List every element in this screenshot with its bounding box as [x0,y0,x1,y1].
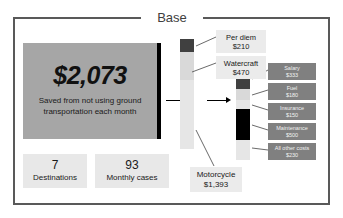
callout-value: $150 [268,112,316,119]
leader-fuel [252,90,268,95]
leader-all-other-costs [252,148,268,150]
callout-value: $210 [216,42,266,51]
callout-value: $500 [268,132,316,139]
page-title: Base [141,9,203,27]
callout-label: Salary [268,65,316,72]
callout-insurance: Insurance $150 [268,103,316,120]
callout-per-diem: Per diem $210 [216,30,266,53]
callout-label: All other costs [268,145,316,152]
leader-insurance [252,105,268,110]
leader-watercraft [192,63,216,72]
callout-motorcycle: Motorcycle $1,393 [190,167,242,192]
callout-label: Motorcycle [190,170,242,180]
callout-value: $180 [268,92,316,99]
callout-label: Insurance [268,105,316,112]
callout-value: $333 [268,72,316,79]
callout-fuel: Fuel $180 [268,83,316,100]
callout-maintenance: Maintenance $500 [268,123,316,140]
callout-value: $470 [216,68,266,77]
callout-label: Maintenance [268,125,316,132]
leader-per-diem [196,37,216,46]
callout-value: $230 [268,152,316,159]
callout-watercraft: Watercraft $470 [216,56,266,79]
callout-salary: Salary $333 [268,63,316,80]
callout-value: $1,393 [190,180,242,190]
leader-maintenance [252,125,268,130]
callout-label: Per diem [216,33,266,42]
leader-motorcycle [196,130,214,166]
callout-all-other-costs: All other costs $230 [268,143,316,160]
callout-label: Fuel [268,85,316,92]
callout-label: Watercraft [216,59,266,68]
